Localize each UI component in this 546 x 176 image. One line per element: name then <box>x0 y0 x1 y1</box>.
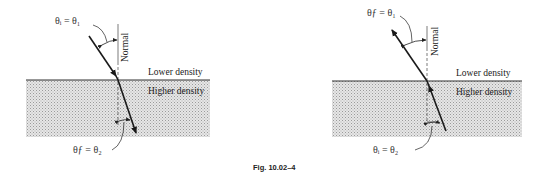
refracted-ray <box>392 30 427 81</box>
upper-medium-label: Lower density <box>148 67 203 77</box>
figure-caption: Fig. 10.02–4 <box>253 163 296 172</box>
left-panel: Normal θᵢ = θ₁ θƒ = θ₂ Lower density Hig… <box>26 15 210 155</box>
refracted-angle-arc <box>405 40 426 45</box>
upper-medium-label: Lower density <box>456 68 511 78</box>
incident-label-leader <box>93 25 107 42</box>
normal-label: Normal <box>430 27 440 56</box>
refracted-angle-label: θƒ = θ₁ <box>367 7 396 18</box>
incident-ray <box>89 36 116 76</box>
refracted-label-leader <box>400 16 412 42</box>
refraction-diagram: Normal θᵢ = θ₁ θƒ = θ₂ Lower density Hig… <box>0 0 546 176</box>
right-panel: Normal θƒ = θ₁ θᵢ = θ₂ Lower density Hig… <box>332 7 522 155</box>
normal-label: Normal <box>120 33 130 62</box>
refracted-angle-label: θƒ = θ₂ <box>73 144 102 155</box>
lower-medium-label: Higher density <box>148 86 204 96</box>
incident-angle-label: θᵢ = θ₁ <box>55 15 80 26</box>
incident-angle-arc <box>102 40 117 45</box>
incident-angle-label: θᵢ = θ₂ <box>373 144 398 155</box>
lower-medium-label: Higher density <box>456 87 512 97</box>
